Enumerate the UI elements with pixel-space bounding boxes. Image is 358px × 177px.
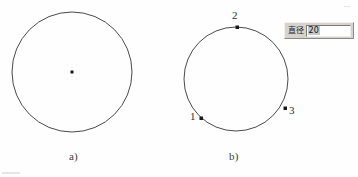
caption-a: a): [69, 150, 78, 162]
diameter-input[interactable]: 20: [306, 25, 351, 37]
diameter-label: 直径: [287, 27, 306, 35]
figure-page: 1 2 3 a) b) 直径 20: [0, 0, 358, 177]
circle-b-point-3-label: 3: [289, 104, 295, 116]
caption-b: b): [229, 150, 239, 162]
scan-speckle: [2, 172, 20, 174]
circle-b-point-2-label: 2: [232, 9, 238, 21]
circle-b-point-3-marker: [284, 107, 288, 111]
diameter-value: 20: [308, 26, 320, 35]
circle-b-outline: [184, 27, 288, 131]
circle-a-center-dot: [71, 71, 74, 74]
circle-b-point-1-label: 1: [190, 110, 196, 122]
circle-b-point-1-marker: [200, 117, 204, 121]
circle-b-point-2-marker: [236, 26, 240, 30]
scan-speckle: [344, 6, 350, 7]
diameter-dialog[interactable]: 直径 20: [284, 22, 354, 39]
